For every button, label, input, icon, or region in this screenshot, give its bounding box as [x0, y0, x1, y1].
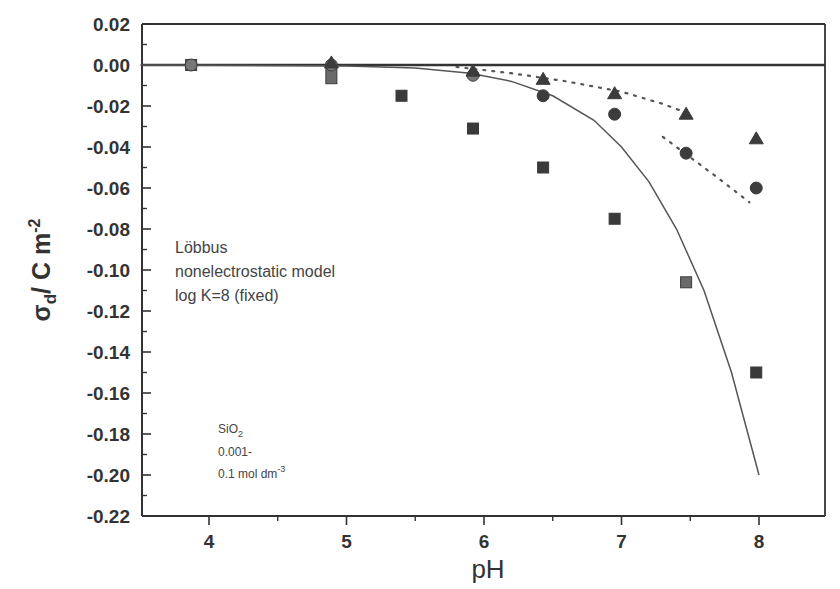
- square-marker: [751, 367, 762, 378]
- x-tick-label: 5: [341, 531, 352, 552]
- triangle-marker: [749, 132, 763, 144]
- x-axis: 45678: [204, 516, 765, 552]
- triangle-marker: [679, 107, 693, 119]
- sample-annotation: SiO2 0.001- 0.1 mol dm-3: [218, 422, 285, 481]
- circle-marker: [185, 59, 197, 71]
- annotation-conc-range-end: 0.1 mol dm-3: [218, 464, 285, 481]
- y-axis-title-sigma: σ: [27, 304, 55, 321]
- annotation-formula: SiO2: [218, 422, 243, 439]
- chart: 0.020.00-0.02-0.04-0.06-0.08-0.10-0.12-0…: [0, 0, 840, 589]
- y-tick-label: -0.10: [87, 260, 130, 281]
- circle-marker: [609, 108, 621, 120]
- annotation-model: nonelectrostatic model: [175, 263, 335, 280]
- y-tick-label: -0.16: [87, 383, 130, 404]
- y-tick-label: -0.08: [87, 219, 130, 240]
- annotation-author: Löbbus: [175, 239, 228, 256]
- circle-marker: [680, 147, 692, 159]
- x-tick-label: 7: [616, 531, 627, 552]
- y-tick-label: 0.02: [93, 14, 130, 35]
- square-marker: [609, 213, 620, 224]
- square-marker: [396, 90, 407, 101]
- circle-marker: [537, 90, 549, 102]
- model-annotation: Löbbus nonelectrostatic model log K=8 (f…: [175, 239, 335, 304]
- model-curve-dotted: [457, 67, 691, 114]
- square-marker: [681, 277, 692, 288]
- square-marker: [468, 123, 479, 134]
- annotation-conc-range-start: 0.001-: [218, 445, 252, 459]
- y-tick-label: -0.02: [87, 96, 130, 117]
- y-tick-label: -0.22: [87, 506, 130, 527]
- y-tick-label: -0.20: [87, 465, 130, 486]
- y-axis-title-unit: / C m: [27, 233, 55, 294]
- y-tick-label: -0.12: [87, 301, 130, 322]
- x-tick-label: 4: [204, 531, 215, 552]
- annotation-logk: log K=8 (fixed): [175, 287, 279, 304]
- y-axis-title: σd/ C m-2: [26, 218, 60, 321]
- y-axis-title-superscript: -2: [26, 218, 43, 232]
- model-curve-dotted: [663, 137, 750, 203]
- y-tick-label: -0.18: [87, 424, 130, 445]
- y-tick-label: -0.04: [87, 137, 131, 158]
- x-tick-label: 6: [479, 531, 490, 552]
- data-markers: [185, 56, 763, 378]
- square-marker: [538, 162, 549, 173]
- y-tick-label: -0.14: [87, 342, 131, 363]
- x-tick-label: 8: [754, 531, 765, 552]
- svg-text:σd/ C m-2: σd/ C m-2: [26, 218, 60, 321]
- y-axis-title-subscript: d: [41, 294, 60, 304]
- x-axis-title: pH: [471, 554, 504, 584]
- circle-marker: [750, 182, 762, 194]
- y-tick-label: -0.06: [87, 178, 130, 199]
- y-tick-label: 0.00: [93, 55, 130, 76]
